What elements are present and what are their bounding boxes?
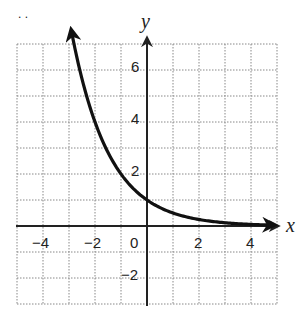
x-tick-label: 4 (246, 234, 254, 251)
y-tick-label: −2 (121, 266, 138, 283)
y-tick-label: 2 (131, 162, 139, 179)
x-axis-label: x (285, 214, 295, 236)
y-tick-label: 6 (131, 58, 139, 75)
x-tick-label: 0 (130, 234, 138, 251)
graph: x y −4 −2 0 2 4 6 4 2 −2 . . (0, 0, 302, 316)
exponential-curve (72, 32, 272, 225)
x-tick-label: −2 (84, 234, 101, 251)
y-axis-label: y (139, 10, 150, 33)
x-tick-label: −4 (32, 234, 49, 251)
x-tick-label: 2 (194, 234, 202, 251)
dots-annotation: . . (18, 7, 28, 21)
y-tick-label: 4 (131, 110, 139, 127)
